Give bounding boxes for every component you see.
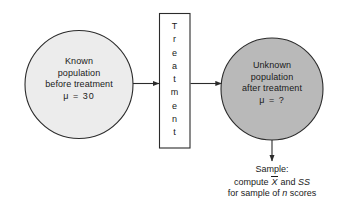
treatment-letter-1: T (159, 20, 190, 33)
treatment-letter-2: r (159, 33, 190, 46)
unknown-population-circle (221, 38, 323, 140)
for-sample-prefix: for sample of (228, 188, 283, 198)
x-bar-symbol: X (271, 176, 278, 187)
treatment-letter-3: e (159, 47, 190, 60)
ss-symbol: SS (298, 177, 310, 187)
treatment-letter-9: t (159, 126, 190, 139)
sample-caption-line3: for sample of n scores (202, 188, 342, 200)
treatment-letter-5: t (159, 73, 190, 86)
sample-caption-line1: Sample: (202, 164, 342, 176)
treatment-letter-4: a (159, 60, 190, 73)
treatment-letter-7: e (159, 100, 190, 113)
scores-suffix: scores (287, 188, 316, 198)
and-connector: and (278, 177, 298, 187)
sample-caption: Sample: compute X and SS for sample of n… (202, 164, 342, 200)
treatment-letter-8: n (159, 113, 190, 126)
known-population-circle (25, 31, 133, 139)
treatment-label: T r e a t m e n t (159, 20, 190, 140)
compute-prefix: compute (234, 177, 271, 187)
diagram-canvas: Known population before treatment μ = 30… (0, 0, 349, 211)
sample-caption-line2: compute X and SS (202, 176, 342, 189)
treatment-letter-6: m (159, 86, 190, 99)
